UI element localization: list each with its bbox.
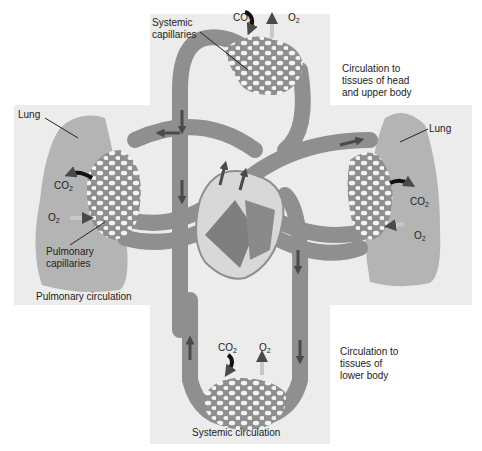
systemic-capillaries-top [225,36,303,95]
pulmonary-capillaries-left [87,150,141,240]
bottom-co2-label: CO2 [218,342,237,354]
left-co2-label: CO2 [54,180,73,192]
right-co2-label: CO2 [410,196,429,208]
lower-circulation-label: Circulation to tissues of lower body [340,346,398,382]
systemic-circulation-label: Systemic circulation [192,427,280,439]
left-o2-label: O2 [48,212,60,224]
pulmonary-circulation-label: Pulmonary circulation [36,291,132,303]
top-o2-label: O2 [288,12,300,24]
pulmonary-capillaries-label: Pulmonary capillaries [46,246,94,270]
left-lung-label: Lung [18,109,40,121]
right-lung-label: Lung [429,123,451,135]
systemic-capillaries-bottom [204,378,286,430]
bottom-o2-label: O2 [259,342,271,354]
systemic-capillaries-label: Systemic capillaries [152,17,196,41]
head-circulation-label: Circulation to tissues of head and upper… [342,63,412,99]
right-o2-label: O2 [414,230,426,242]
top-co2-label: CO2 [233,12,252,24]
